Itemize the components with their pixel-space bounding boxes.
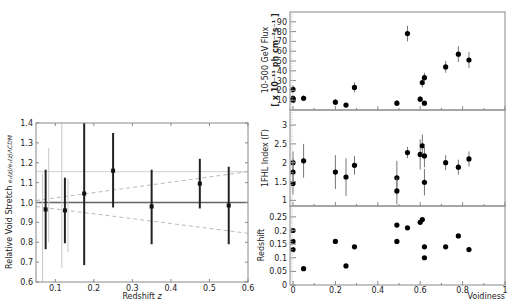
void-stretch-axes: 0.10.20.30.40.50.60.60.70.80.91.01.11.21…: [20, 119, 254, 293]
redshift-panel-plot-area: [290, 217, 471, 271]
data-point: [405, 225, 410, 230]
data-point: [198, 182, 202, 186]
data-point: [333, 100, 338, 105]
data-point: [443, 244, 448, 249]
data-point: [301, 96, 306, 101]
data-point: [422, 255, 427, 260]
y-tick-label: 1.4: [20, 119, 33, 128]
y-tick-label: 1.0: [20, 199, 33, 208]
y-tick-label: 0.8: [20, 238, 33, 247]
index-panel-plot-area: [290, 134, 471, 204]
data-point: [405, 150, 410, 155]
y-tick-label: 0.7: [20, 258, 33, 267]
y-tick-label: 1.1: [20, 179, 33, 188]
data-point: [343, 263, 348, 268]
flux-panel-frame: [290, 12, 505, 110]
y-tick-label: 1.5: [274, 178, 287, 187]
data-point: [394, 188, 399, 193]
data-point: [466, 57, 471, 62]
data-point: [44, 207, 48, 211]
x-tick-label: 0.4: [165, 284, 178, 293]
y-tick-label: 1.3: [20, 139, 33, 148]
flux-y-axis-title-line2: [ x 10⁻¹¹ ph cm⁻²s⁻¹ ]: [271, 13, 280, 106]
y-tick-label: 0: [282, 281, 287, 290]
data-point: [352, 163, 357, 168]
y-tick-label: 1: [282, 196, 287, 205]
data-point: [443, 160, 448, 165]
data-point: [301, 158, 306, 163]
flux-y-axis-title-line1: 10-500 GeV Flux: [261, 26, 270, 93]
void-stretch-chart: 0.10.20.30.40.50.60.60.70.80.91.01.11.21…: [5, 119, 254, 301]
void-stretch-plot-area: [36, 123, 248, 282]
data-point: [333, 239, 338, 244]
figure: 0.10.20.30.40.50.60.60.70.80.91.01.11.21…: [0, 0, 518, 307]
y-tick-label: 0.15: [269, 240, 287, 249]
voidiness-axes: 10203040506070809011.522.5300.050.10.150…: [269, 12, 507, 295]
void-stretch-x-axis-title: Redshift z: [122, 292, 162, 301]
data-point: [352, 244, 357, 249]
data-point: [422, 244, 427, 249]
data-point: [466, 247, 471, 252]
y-tick-label: 1.2: [20, 159, 33, 168]
redshift-y-axis-title: Redshift: [257, 229, 266, 261]
data-point: [422, 75, 427, 80]
data-point: [456, 52, 461, 57]
x-tick-label: 0: [290, 286, 295, 295]
data-point: [420, 217, 425, 222]
y-tick-label: 0.1: [274, 254, 287, 263]
data-point: [333, 170, 338, 175]
x-tick-label: 0.2: [329, 286, 342, 295]
x-tick-label: 0.5: [203, 284, 216, 293]
x-tick-label: 0.2: [87, 284, 100, 293]
flux-panel-plot-area: [290, 26, 471, 108]
data-point: [394, 222, 399, 227]
y-tick-label: 2: [282, 159, 287, 168]
data-point: [456, 233, 461, 238]
x-tick-label: 0.6: [242, 284, 255, 293]
data-point: [111, 169, 115, 173]
y-tick-label: 0.25: [269, 213, 287, 222]
data-point: [456, 165, 461, 170]
data-point: [290, 87, 295, 92]
data-point: [63, 208, 67, 212]
voidiness-panels: 10203040506070809011.522.5300.050.10.150…: [257, 12, 508, 301]
y-tick-label: 0.6: [20, 278, 33, 287]
y-tick-label: 0.9: [20, 218, 33, 227]
index-y-axis-title: 1FHL Index (Γ): [261, 129, 270, 187]
y-tick-label: 3: [282, 121, 287, 130]
data-point: [405, 31, 410, 36]
redshift-panel-frame: [290, 206, 505, 285]
data-point: [394, 101, 399, 106]
x-tick-label: 0.4: [371, 286, 384, 295]
data-point: [418, 97, 423, 102]
x-tick-label: 0.1: [49, 284, 62, 293]
data-point: [443, 64, 448, 69]
data-point: [150, 204, 154, 208]
data-point: [227, 203, 231, 207]
x-tick-label: 0.6: [414, 286, 427, 295]
data-point: [352, 85, 357, 90]
voidiness-x-axis-title: Voidiness: [467, 292, 505, 301]
data-point: [343, 174, 348, 179]
data-point: [394, 239, 399, 244]
data-point: [422, 180, 427, 185]
data-point: [422, 153, 427, 158]
void-stretch-y-axis-title: Relative Void Stretch eᵥ(z)/eᵥ(z)ΛCDM: [5, 134, 14, 269]
data-point: [343, 103, 348, 108]
data-point: [422, 101, 427, 106]
y-tick-label: 0.05: [269, 267, 287, 276]
data-point: [466, 156, 471, 161]
y-tick-label: 2.5: [274, 140, 287, 149]
y-tick-label: 0.2: [274, 227, 287, 236]
data-point: [82, 192, 86, 196]
data-point: [301, 266, 306, 271]
